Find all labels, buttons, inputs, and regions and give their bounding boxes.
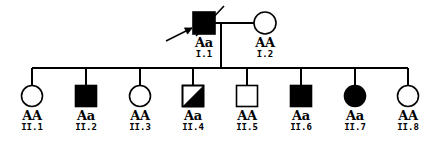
member-label-I-2: AAI.2 [225,36,305,59]
pedigree-symbol-II-1 [22,86,43,107]
symbol-circle-I-2 [254,12,276,34]
individual-id-II-8: II.8 [368,123,447,132]
genotype-II-8: AA [368,109,447,122]
symbol-circle-II-7 [345,86,366,107]
pedigree-symbol-II-2 [76,86,97,107]
member-label-II-8: AAII.8 [368,109,447,132]
pedigree-chart: AaI.1AAI.2AAII.1AaII.2AAII.3AaII.4AAII.5… [0,0,447,142]
proband-arrow-head [185,28,192,34]
pedigree-symbols [22,12,419,107]
pedigree-symbol-I-1 [193,12,215,34]
pedigree-symbol-II-3 [130,86,151,107]
pedigree-symbol-I-2 [254,12,276,34]
symbol-circle-II-3 [130,86,151,107]
genotype-I-2: AA [225,36,305,49]
symbol-square-II-6 [291,86,312,107]
pedigree-symbol-II-5 [237,86,258,107]
pedigree-symbol-II-7 [345,86,366,107]
symbol-circle-II-1 [22,86,43,107]
symbol-square-II-5 [237,86,258,107]
individual-id-I-2: I.2 [225,50,305,59]
pedigree-symbol-II-8 [398,86,419,107]
pedigree-symbol-II-6 [291,86,312,107]
pedigree-symbol-II-4 [183,86,204,107]
symbol-circle-II-8 [398,86,419,107]
symbol-square-II-2 [76,86,97,107]
symbol-square-I-1 [193,12,215,34]
